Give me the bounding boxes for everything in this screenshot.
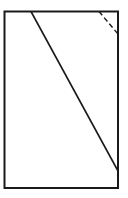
dashed-fold-line [99,12,118,35]
diagram-svg [0,0,128,198]
paper-rectangle [5,12,119,189]
diagonal-fold-line [31,12,118,172]
diagram-canvas [0,0,128,198]
